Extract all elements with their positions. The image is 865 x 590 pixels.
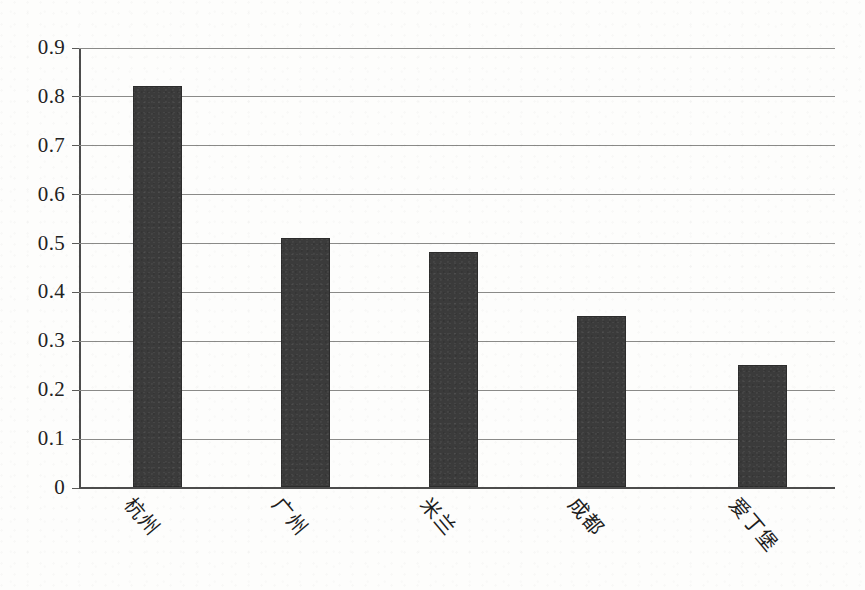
plot-area xyxy=(79,48,835,488)
bar xyxy=(281,238,330,487)
y-axis-tick-label: 0.8 xyxy=(38,86,65,107)
y-axis-tick-label: 0.9 xyxy=(38,37,65,58)
y-axis-tick-labels: 00.10.20.30.40.50.60.70.80.9 xyxy=(0,48,65,489)
y-axis-tick xyxy=(72,488,79,489)
y-axis-tick-label: 0.1 xyxy=(38,428,65,449)
y-axis-tick-label: 0.4 xyxy=(38,281,65,302)
y-axis-tick xyxy=(72,48,79,49)
y-axis-tick xyxy=(72,145,79,146)
y-axis-tick xyxy=(72,194,79,195)
x-axis-category-label: 爱丁堡 xyxy=(724,490,787,557)
x-axis-category-label: 米兰 xyxy=(415,490,464,541)
y-axis-tick-label: 0 xyxy=(54,477,65,498)
x-axis-category-label: 杭州 xyxy=(119,490,168,541)
y-axis-tick-label: 0.7 xyxy=(38,135,65,156)
gridline xyxy=(79,48,835,49)
bar xyxy=(133,86,182,487)
bar xyxy=(429,252,478,487)
y-axis-line xyxy=(79,48,81,489)
y-axis-tick xyxy=(72,341,79,342)
x-axis-category-label: 成都 xyxy=(563,490,612,541)
y-axis-tick-label: 0.6 xyxy=(38,184,65,205)
y-axis-tick xyxy=(72,292,79,293)
gridline xyxy=(79,194,835,195)
y-axis-tick-label: 0.2 xyxy=(38,379,65,400)
bar xyxy=(577,316,626,487)
gridline xyxy=(79,96,835,97)
gridline xyxy=(79,243,835,244)
gridline xyxy=(79,145,835,146)
y-axis-tick-label: 0.5 xyxy=(38,233,65,254)
x-axis-line xyxy=(79,487,835,489)
bar xyxy=(738,365,787,487)
y-axis-tick xyxy=(72,96,79,97)
bar-chart: 00.10.20.30.40.50.60.70.80.9 杭州广州米兰成都爱丁堡 xyxy=(0,0,865,590)
x-axis-category-label: 广州 xyxy=(267,490,316,541)
x-axis-category-labels: 杭州广州米兰成都爱丁堡 xyxy=(79,490,835,590)
y-axis-tick xyxy=(72,390,79,391)
y-axis-tick xyxy=(72,243,79,244)
y-axis-tick-label: 0.3 xyxy=(38,330,65,351)
y-axis-tick xyxy=(72,439,79,440)
